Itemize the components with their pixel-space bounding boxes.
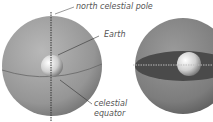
left-celestial-sphere	[2, 7, 102, 122]
label-north-celestial-pole: north celestial pole	[76, 2, 153, 11]
label-equator: equator	[94, 109, 125, 118]
earth-icon	[177, 52, 201, 76]
right-celestial-sphere	[133, 18, 213, 114]
label-earth: Earth	[104, 30, 125, 39]
earth-icon	[41, 55, 63, 77]
pole-leader	[55, 7, 74, 14]
label-celestial: celestial	[94, 99, 127, 108]
